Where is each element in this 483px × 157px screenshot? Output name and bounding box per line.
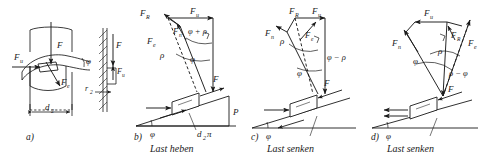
svg-text:2: 2 <box>203 135 206 141</box>
svg-text:R: R <box>294 12 299 18</box>
label-angle-phi-c: φ <box>297 68 302 78</box>
svg-text:R: R <box>456 36 461 42</box>
svg-text:F: F <box>146 36 153 46</box>
svg-text:d: d <box>197 129 202 139</box>
label-angle-phi-incline-c: φ <box>266 131 271 141</box>
svg-text:F: F <box>311 6 318 16</box>
svg-text:n: n <box>398 44 401 50</box>
svg-text:u: u <box>430 14 433 20</box>
svg-text:u: u <box>196 12 199 18</box>
svg-text:F: F <box>172 26 179 36</box>
label-force-axial-a: F <box>56 40 63 50</box>
svg-text:u: u <box>318 12 321 18</box>
svg-text:F: F <box>467 38 474 48</box>
svg-text:e: e <box>474 44 477 50</box>
svg-text:e: e <box>67 83 70 89</box>
label-force-axial-a2: F <box>115 40 122 50</box>
label-angle-phi-a: φ <box>86 56 91 66</box>
svg-text:F: F <box>13 52 20 62</box>
svg-text:u: u <box>122 72 125 78</box>
svg-text:F: F <box>288 6 295 16</box>
label-angle-phi-incline-d: φ <box>386 131 391 141</box>
svg-text:F: F <box>60 77 67 87</box>
label-angle-phi-b: φ <box>190 54 195 64</box>
panel-caption-d: Last senken <box>386 143 434 154</box>
svg-text:n: n <box>271 34 274 40</box>
label-angle-rho-b: ρ <box>159 50 165 60</box>
svg-text:R: R <box>145 14 150 20</box>
label-angle-diff-c: φ − ρ <box>327 52 346 62</box>
panel-caption-b: Last heben <box>149 143 194 154</box>
label-angle-rho-c: ρ <box>279 36 285 46</box>
svg-text:F: F <box>450 30 457 40</box>
svg-text:F: F <box>189 6 196 16</box>
svg-text:F: F <box>391 38 398 48</box>
label-height-P-b: P <box>232 107 239 117</box>
svg-text:F: F <box>139 8 146 18</box>
label-angle-diff-d: ρ − φ <box>448 68 468 78</box>
panel-caption-c: Last senken <box>266 143 314 154</box>
svg-text:u: u <box>20 58 23 64</box>
label-angle-phi-d: φ <box>413 56 418 66</box>
svg-text:π: π <box>207 129 212 139</box>
label-angle-sum-b: φ + ρ <box>188 26 207 36</box>
panel-tag-d: d) <box>371 132 379 143</box>
svg-text:F: F <box>304 30 311 40</box>
label-angle-rho-d: ρ <box>437 46 443 56</box>
svg-text:n: n <box>179 32 182 38</box>
svg-text:e: e <box>153 42 156 48</box>
panel-tag-b: b) <box>134 132 142 143</box>
svg-text:d: d <box>45 102 50 112</box>
svg-text:F: F <box>264 28 271 38</box>
label-F-c: F <box>323 78 330 88</box>
svg-text:2: 2 <box>90 89 93 95</box>
label-angle-phi-incline-b: φ <box>150 129 155 139</box>
panel-tag-a: a) <box>26 132 34 143</box>
label-F-b: F <box>212 74 219 84</box>
label-F-d: F <box>447 84 454 94</box>
screw-thread-force-diagram: F F u F e φ d 2 <box>0 0 483 157</box>
svg-text:F: F <box>423 8 430 18</box>
svg-text:2: 2 <box>51 108 54 114</box>
panel-tag-c: c) <box>251 132 258 143</box>
figure-background <box>0 0 483 157</box>
